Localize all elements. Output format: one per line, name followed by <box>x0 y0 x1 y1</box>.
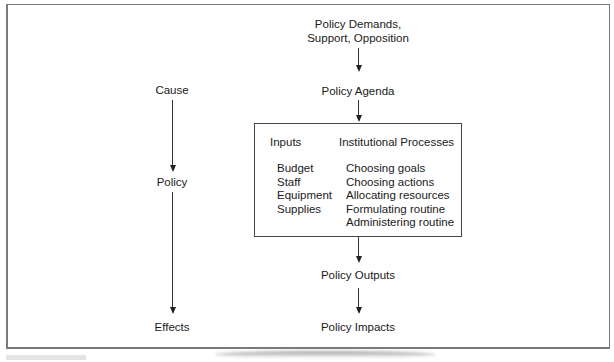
arrow-cause-to-policy-line <box>172 100 173 166</box>
input-item: Staff <box>277 176 332 190</box>
node-policy-demands-line1: Policy Demands, <box>307 17 409 31</box>
processes-list: Choosing goals Choosing actions Allocati… <box>346 162 454 230</box>
input-item: Budget <box>277 162 332 176</box>
input-item: Supplies <box>277 203 332 217</box>
inputs-header: Inputs <box>270 135 301 149</box>
page-edge-decoration <box>6 355 86 360</box>
arrow-policy-to-effects-line <box>172 192 173 308</box>
arrow-down-icon <box>356 256 362 263</box>
processes-header: Institutional Processes <box>339 135 454 149</box>
process-item: Formulating routine <box>346 203 454 217</box>
node-policy-demands-line2: Support, Opposition <box>307 31 409 45</box>
node-policy-agenda: Policy Agenda <box>322 84 395 98</box>
arrow-outputs-to-impacts-line <box>358 288 359 308</box>
node-policy-outputs: Policy Outputs <box>321 268 395 282</box>
arrow-down-icon <box>356 115 362 122</box>
page-shadow <box>215 351 435 358</box>
node-policy-demands: Policy Demands, Support, Opposition <box>307 17 409 45</box>
node-effects: Effects <box>155 320 190 334</box>
arrow-agenda-to-box-line <box>358 100 359 116</box>
input-item: Equipment <box>277 189 332 203</box>
process-item: Administering routine <box>346 216 454 230</box>
arrow-down-icon <box>356 65 362 72</box>
node-cause: Cause <box>155 83 188 97</box>
inputs-list: Budget Staff Equipment Supplies <box>277 162 332 216</box>
process-item: Choosing actions <box>346 176 454 190</box>
arrow-demands-to-agenda-line <box>358 48 359 66</box>
process-item: Allocating resources <box>346 189 454 203</box>
process-item: Choosing goals <box>346 162 454 176</box>
arrow-down-icon <box>356 307 362 314</box>
arrow-down-icon <box>170 307 176 314</box>
arrow-down-icon <box>170 165 176 172</box>
node-policy-impacts: Policy Impacts <box>321 320 395 334</box>
arrow-box-to-outputs-line <box>358 237 359 257</box>
node-policy: Policy <box>157 175 188 189</box>
